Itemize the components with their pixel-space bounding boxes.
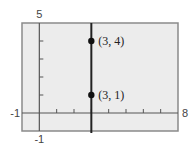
- graph-plot: (3, 4)(3, 1) 5 -1 8 -1: [0, 0, 195, 152]
- data-point-dot: [88, 38, 94, 44]
- data-point-dot: [88, 92, 94, 98]
- y-min-label: -1: [34, 133, 44, 145]
- data-point-label: (3, 4): [98, 34, 124, 48]
- x-max-label: 8: [182, 107, 188, 119]
- x-min-label: -1: [10, 107, 20, 119]
- y-max-label: 5: [36, 8, 42, 20]
- data-point-label: (3, 1): [98, 88, 124, 102]
